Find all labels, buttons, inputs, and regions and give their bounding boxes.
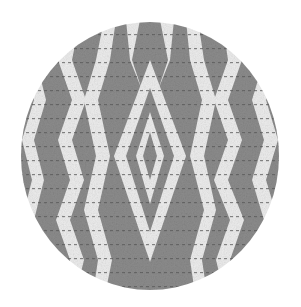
fabric-swatch — [0, 0, 301, 307]
